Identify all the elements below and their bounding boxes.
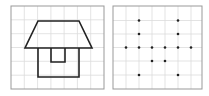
door — [51, 48, 65, 62]
right-panel — [113, 6, 202, 89]
house-outline — [25, 21, 92, 77]
diagram-canvas — [0, 0, 209, 96]
roof — [25, 21, 92, 48]
left-panel — [11, 6, 104, 89]
